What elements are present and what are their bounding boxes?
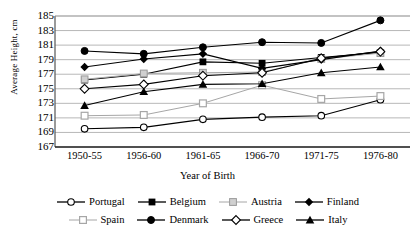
x-tick-label: 1966-70	[232, 150, 292, 161]
legend-label: Italy	[328, 214, 347, 226]
legend-label: Austria	[251, 196, 282, 208]
legend-marker-filled-circle-icon	[136, 214, 166, 226]
series-belgium	[81, 49, 384, 83]
legend-label: Belgium	[170, 196, 206, 208]
x-tick-label: 1956-60	[114, 150, 174, 161]
plot-area	[0, 0, 415, 160]
legend-item-italy[interactable]: Italy	[295, 214, 347, 226]
legend-marker-light-square-icon	[218, 196, 248, 208]
series-portugal	[81, 96, 383, 132]
legend-item-portugal[interactable]: Portugal	[56, 196, 125, 208]
legend-label: Finland	[327, 196, 359, 208]
x-tick-label: 1976-80	[350, 150, 410, 161]
x-tick-label: 1961-65	[173, 150, 233, 161]
legend-label: Denmark	[169, 214, 208, 226]
height-by-birth-year-chart: Average Height, cm 185183181179177175173…	[0, 0, 415, 233]
series-spain	[81, 82, 384, 119]
series-denmark	[81, 17, 384, 57]
legend-item-belgium[interactable]: Belgium	[137, 196, 206, 208]
legend-label: Greece	[254, 214, 284, 226]
x-tick-label: 1950-55	[55, 150, 115, 161]
legend-marker-filled-diamond-icon	[294, 196, 324, 208]
legend-row: SpainDenmarkGreeceItaly	[0, 211, 415, 229]
legend-marker-filled-triangle-icon	[295, 214, 325, 226]
series-greece	[80, 47, 385, 93]
legend-label: Spain	[101, 214, 125, 226]
legend-item-spain[interactable]: Spain	[68, 214, 125, 226]
legend-item-finland[interactable]: Finland	[294, 196, 359, 208]
x-axis-title: Year of Birth	[0, 170, 415, 181]
legend-marker-open-circle-icon	[56, 196, 86, 208]
x-tick-label: 1971-75	[291, 150, 351, 161]
legend-item-austria[interactable]: Austria	[218, 196, 282, 208]
legend-item-denmark[interactable]: Denmark	[136, 214, 208, 226]
legend-item-greece[interactable]: Greece	[221, 214, 284, 226]
legend-row: PortugalBelgiumAustriaFinland	[0, 193, 415, 211]
legend-marker-filled-square-icon	[137, 196, 167, 208]
legend-marker-open-diamond-icon	[221, 214, 251, 226]
series-austria	[81, 50, 384, 83]
chart-legend: PortugalBelgiumAustriaFinlandSpainDenmar…	[0, 193, 415, 229]
legend-label: Portugal	[89, 196, 125, 208]
legend-marker-light-open-square-icon	[68, 214, 98, 226]
